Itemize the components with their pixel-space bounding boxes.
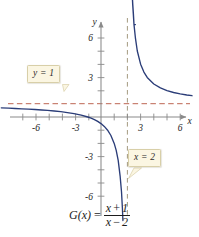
formula-numerator: x+1 [104, 202, 130, 215]
formula-numerator-constant: 1 [122, 201, 128, 215]
plot-canvas: -6 -3 3 6 6 3 -3 -6 x y [0, 0, 199, 237]
x-axis [10, 114, 186, 121]
x-tick-label-3: 3 [137, 123, 143, 133]
y-tick-label-3: 3 [87, 73, 93, 83]
y-axis-label: y [91, 17, 97, 27]
callout-x2-pointer [129, 168, 142, 179]
formula-numerator-variable: x [106, 201, 111, 215]
callout-horizontal-asymptote: y = 1 [27, 65, 60, 83]
y-tick-label--6: -6 [85, 192, 93, 202]
y-tick-label--3: -3 [85, 152, 93, 162]
x-tick-label-6: 6 [178, 123, 183, 133]
formula-denominator-operator: − [113, 215, 120, 229]
callout-vertical-asymptote: x = 2 [128, 149, 161, 167]
formula-fraction: x+1 x−2 [104, 202, 130, 229]
callout-y1-pointer [63, 85, 70, 92]
formula-denominator-constant: 2 [122, 215, 128, 229]
formula-equals: = [94, 208, 101, 222]
formula-denominator: x−2 [104, 215, 130, 229]
function-curve [1, 0, 192, 221]
y-tick-label-6: 6 [88, 33, 93, 43]
formula-function-name: G(x) [69, 208, 91, 222]
x-tick-label--3: -3 [72, 123, 80, 133]
function-formula: G(x)= x+1 x−2 [0, 203, 199, 230]
y-axis [98, 22, 105, 216]
x-tick-label--6: -6 [32, 123, 40, 133]
curve-right-branch [132, 0, 192, 96]
formula-denominator-variable: x [106, 215, 111, 229]
rational-function-figure: -6 -3 3 6 6 3 -3 -6 x y y = 1 x = 2 G(x)… [0, 0, 199, 237]
x-axis-label: x [186, 116, 192, 126]
formula-numerator-operator: + [113, 201, 120, 215]
